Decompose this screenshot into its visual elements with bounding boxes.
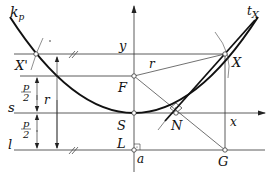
label-r-left: r (44, 93, 51, 107)
point-n (174, 111, 178, 115)
label-g: G (218, 154, 228, 169)
label-a: a (137, 152, 144, 166)
label-l-point: L (116, 136, 126, 151)
label-f: F (117, 80, 128, 95)
point-l (132, 148, 136, 152)
asterisk-dot (49, 40, 51, 42)
label-kp: kp (10, 4, 24, 22)
label-r-top: r (149, 57, 156, 71)
label-half-p-top: p 2 (21, 81, 31, 103)
label-s-line: s (8, 100, 15, 115)
tangent-thin (158, 121, 165, 130)
svg-text:2: 2 (22, 92, 29, 103)
point-s (132, 111, 136, 115)
label-xprime: X' (14, 58, 28, 73)
line-f-x (134, 54, 225, 76)
label-n: N (170, 118, 183, 133)
point-xprime (34, 52, 38, 56)
label-tx: tX (247, 4, 260, 20)
label-s: S (117, 118, 126, 133)
parallel-mark-top (69, 51, 78, 58)
parabola-diagram: kp tX X' X y r r F S L N G x s l a p 2 p… (0, 0, 269, 175)
svg-text:2: 2 (22, 129, 29, 140)
label-x-axis: x (230, 115, 237, 129)
label-l-line: l (8, 137, 12, 152)
svg-text:p: p (23, 81, 30, 92)
point-x (223, 52, 227, 56)
point-g (223, 148, 227, 152)
point-f (132, 74, 136, 78)
svg-text:p: p (23, 118, 30, 129)
right-angle-n-dot (175, 107, 177, 109)
parallel-mark-bottom (69, 147, 78, 154)
label-half-p-bottom: p 2 (21, 118, 31, 140)
label-y: y (118, 38, 127, 53)
right-angle-l-dot (136, 146, 137, 147)
tangent-tx (165, 20, 255, 121)
label-x: X (231, 55, 242, 70)
